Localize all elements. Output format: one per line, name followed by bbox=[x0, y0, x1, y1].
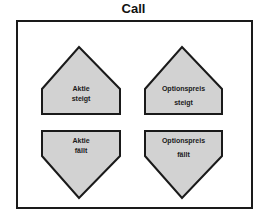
option-up-line1: Optionspreis bbox=[145, 84, 222, 94]
option-down-line1: Optionspreis bbox=[145, 136, 222, 146]
arrow-shapes bbox=[0, 0, 267, 219]
option-up-label: Optionspreis steigt bbox=[145, 84, 222, 108]
option-down-line2: fällt bbox=[145, 150, 222, 160]
stock-down-line1: Aktie bbox=[42, 136, 120, 146]
option-down-label: Optionspreis fällt bbox=[145, 136, 222, 160]
stock-up-line1: Aktie bbox=[42, 84, 120, 94]
stock-down-line2: fällt bbox=[42, 146, 120, 156]
stock-up-label: Aktie steigt bbox=[42, 84, 120, 104]
option-up-line2: steigt bbox=[145, 98, 222, 108]
stock-up-line2: steigt bbox=[42, 94, 120, 104]
stock-down-label: Aktie fällt bbox=[42, 136, 120, 156]
